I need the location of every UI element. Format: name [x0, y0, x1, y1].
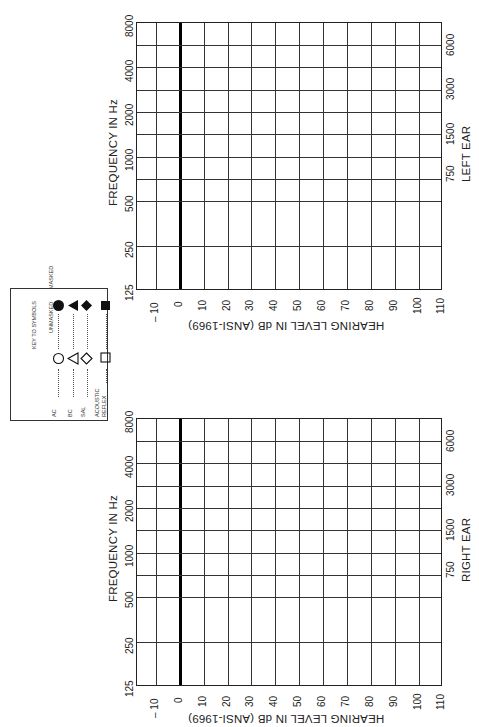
circle-filled-icon: [52, 299, 65, 312]
db-line-50: [299, 23, 300, 289]
freq-line-3000: [137, 90, 441, 91]
legend-col-masked: MASKED: [48, 266, 54, 289]
db-label-50: 50: [292, 300, 303, 311]
db-line-30: [251, 419, 252, 685]
freq-label-500: 500: [124, 591, 135, 608]
freq-label-1000: 1000: [124, 545, 135, 567]
db-line-20: [228, 419, 229, 685]
freq-label-125: 125: [124, 680, 135, 697]
db-line-90: [395, 23, 396, 289]
db-line-60: [323, 23, 324, 289]
db-line-90: [395, 419, 396, 685]
freq-line-250: [137, 642, 441, 643]
legend-row-sal: SAL: [80, 407, 86, 417]
level-axis-title: HEARING LEVEL IN dB (ANSI-1969): [188, 320, 384, 332]
db-line-0: [179, 23, 182, 289]
db-line-80: [371, 23, 372, 289]
freq-line-500: [137, 201, 441, 202]
db-label-110: 110: [435, 694, 446, 710]
leader-ac: [58, 369, 59, 397]
freq-label-4000: 4000: [124, 456, 135, 478]
leader-reflex-2: [106, 314, 107, 349]
freq-label-750: 750: [445, 561, 456, 578]
freq-label-1000: 1000: [124, 149, 135, 171]
triangle-filled-icon: [67, 299, 80, 312]
db-label-70: 70: [340, 696, 351, 707]
db-line-80: [371, 419, 372, 685]
freq-label-6000: 6000: [445, 430, 456, 452]
triangle-open-icon: [67, 352, 80, 365]
db-label-20: 20: [221, 696, 232, 707]
db-line-100: [419, 23, 420, 289]
leader-bc: [73, 369, 74, 397]
db-label-100: 100: [412, 693, 423, 710]
legend-row-acoustic: ACOUSTIC: [94, 389, 100, 417]
freq-line-6000: [137, 441, 441, 442]
db-label-30: 30: [244, 696, 255, 707]
freq-line-6000: [137, 45, 441, 46]
db-line-10: [204, 23, 205, 289]
freq-axis-title: FREQUENCY IN Hz: [107, 99, 119, 206]
freq-label-2000: 2000: [124, 500, 135, 522]
level-axis-title: HEARING LEVEL IN dB (ANSI-1969): [188, 713, 384, 725]
freq-line-2000: [137, 112, 441, 113]
leader-ac-2: [58, 314, 59, 349]
freq-axis-title: FREQUENCY IN Hz: [107, 495, 119, 602]
left-ear-audiogram-grid[interactable]: [136, 22, 442, 290]
diamond-open-icon: [80, 352, 93, 365]
leader-sal-2: [87, 314, 88, 349]
freq-label-8000: 8000: [124, 411, 135, 433]
freq-label-8000: 8000: [124, 15, 135, 37]
db-label-0: 0: [173, 697, 184, 703]
db-label-110: 110: [435, 298, 446, 314]
diamond-filled-icon: [80, 299, 93, 312]
db-label-70: 70: [340, 300, 351, 311]
circle-open-icon: [52, 352, 65, 365]
freq-label-750: 750: [445, 165, 456, 182]
db-line-20: [228, 23, 229, 289]
leader-sal: [87, 369, 88, 397]
freq-line-4000: [137, 463, 441, 464]
right-ear-audiogram-grid[interactable]: [136, 418, 442, 686]
freq-label-6000: 6000: [445, 34, 456, 56]
db-line-minus10: [156, 419, 157, 685]
freq-line-1000: [137, 553, 441, 554]
ear-label: LEFT EAR: [460, 126, 472, 182]
db-label-minus10: – 10: [149, 699, 160, 718]
db-label-50: 50: [292, 696, 303, 707]
db-label-40: 40: [268, 696, 279, 707]
square-filled-icon: [100, 300, 112, 312]
db-label-90: 90: [388, 300, 399, 311]
db-line-70: [347, 419, 348, 685]
freq-line-750: [137, 575, 441, 576]
ear-label: RIGHT EAR: [460, 518, 472, 582]
db-label-90: 90: [388, 696, 399, 707]
db-line-40: [275, 419, 276, 685]
db-label-minus10: – 10: [149, 303, 160, 322]
db-label-40: 40: [268, 300, 279, 311]
freq-line-250: [137, 246, 441, 247]
db-label-20: 20: [221, 300, 232, 311]
freq-label-3000: 3000: [445, 474, 456, 496]
db-line-100: [419, 419, 420, 685]
freq-label-3000: 3000: [445, 78, 456, 100]
db-label-0: 0: [173, 301, 184, 307]
freq-line-3000: [137, 486, 441, 487]
db-label-60: 60: [316, 696, 327, 707]
symbol-key-legend: KEY TO SYMBOLS UNMASKED MASKED AC BC SAL…: [10, 288, 108, 421]
leader-bc-2: [73, 314, 74, 349]
legend-row-ac: AC: [51, 409, 57, 417]
freq-line-4000: [137, 67, 441, 68]
legend-title: KEY TO SYMBOLS: [31, 301, 37, 349]
db-line-10: [204, 419, 205, 685]
freq-line-2000: [137, 508, 441, 509]
db-line-30: [251, 23, 252, 289]
freq-label-1500: 1500: [445, 519, 456, 541]
db-line-60: [323, 419, 324, 685]
freq-line-1500: [137, 134, 441, 135]
freq-line-1500: [137, 530, 441, 531]
square-open-icon: [100, 352, 112, 364]
db-label-80: 80: [364, 300, 375, 311]
db-line-40: [275, 23, 276, 289]
db-label-30: 30: [244, 300, 255, 311]
